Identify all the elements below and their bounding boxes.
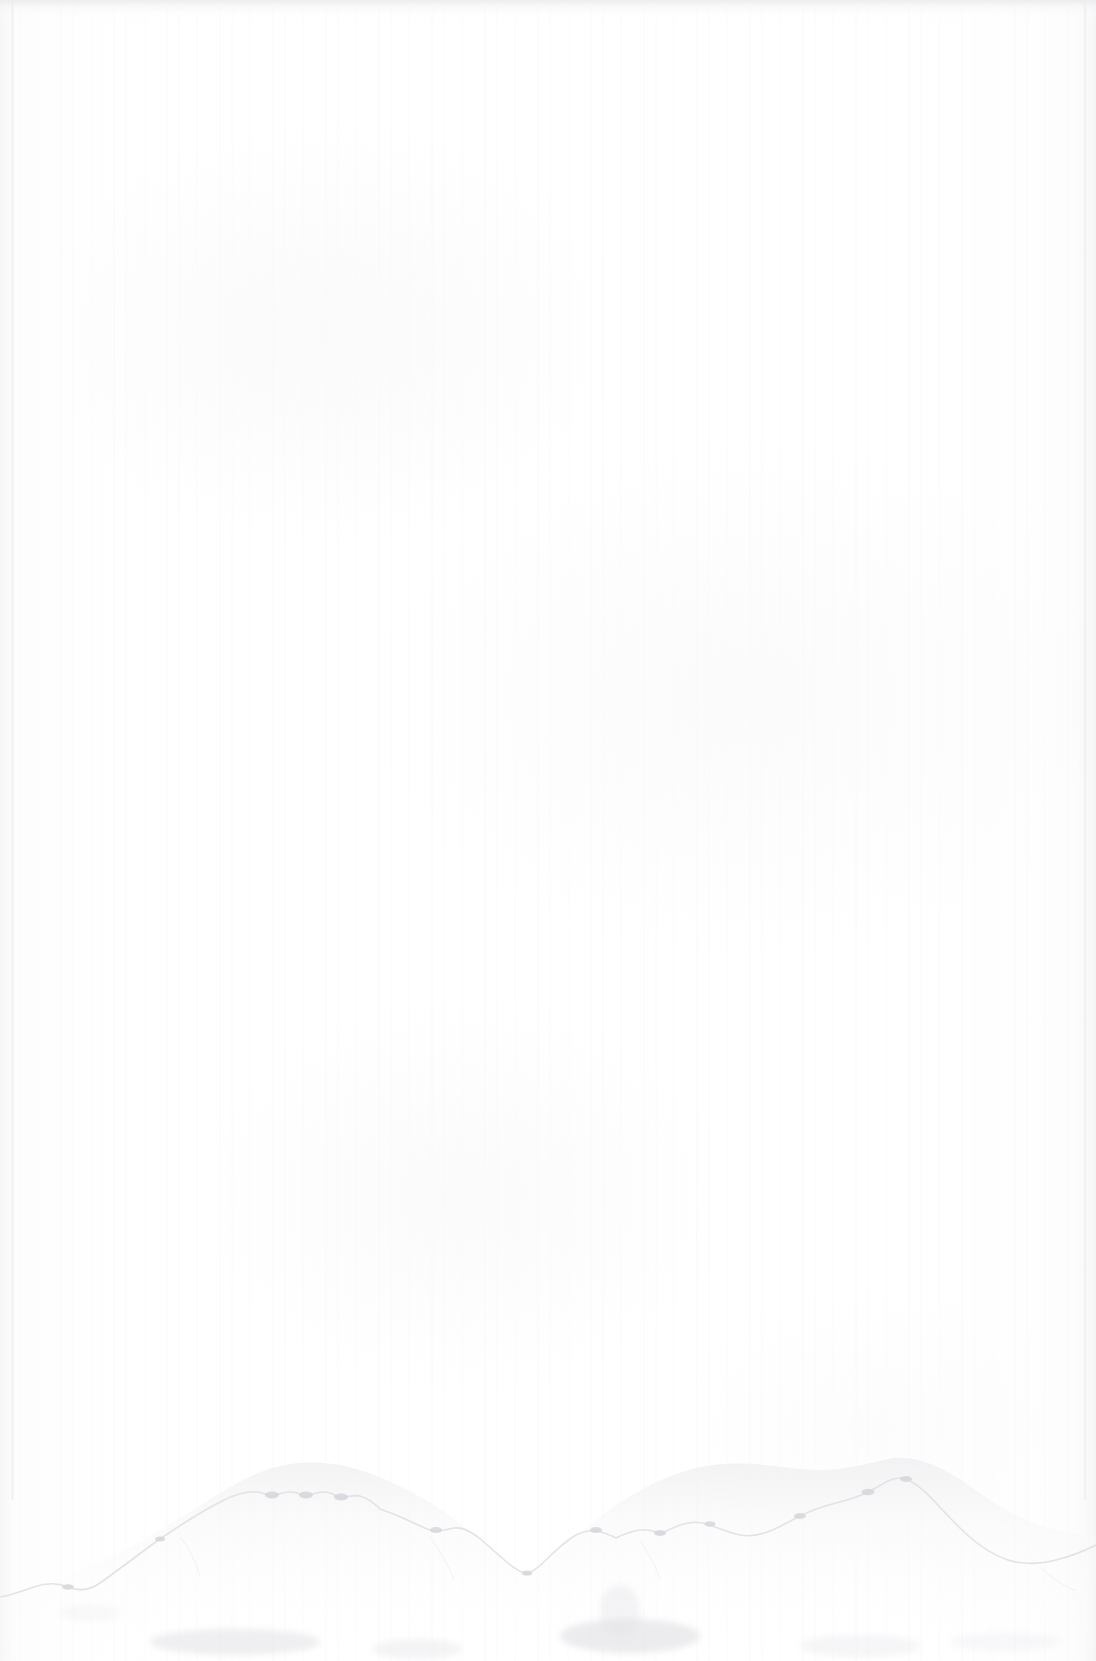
paper-mottle-texture	[0, 0, 1096, 1661]
top-edge-band	[0, 0, 1096, 22]
left-edge-line	[11, 0, 14, 1500]
scanned-page	[0, 0, 1096, 1661]
right-edge-line	[1083, 0, 1087, 1500]
